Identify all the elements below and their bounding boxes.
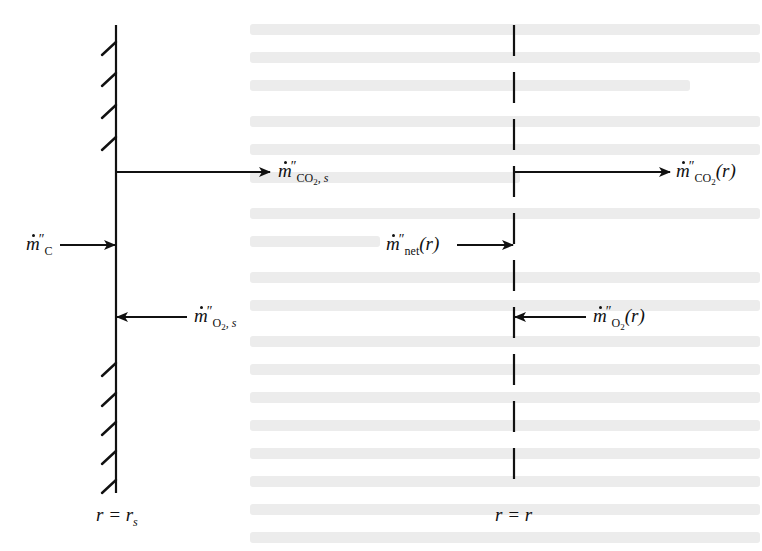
surface-label-particle: r = rs: [96, 505, 138, 524]
mass-flux-symbol: m: [593, 306, 607, 325]
species-subscript: CO: [297, 171, 314, 185]
mass-flux-symbol: m: [26, 234, 40, 253]
hatch-mark: [102, 42, 116, 55]
hatch-mark: [102, 105, 116, 118]
hatch-mark: [102, 137, 116, 150]
species-subscript: CO: [695, 171, 712, 185]
mass-flux-symbol: m: [386, 234, 400, 253]
mass-flux-symbol: m: [278, 161, 292, 180]
flux-label-net-r: m″net(r): [386, 233, 439, 253]
surface-equation: r = r: [495, 504, 532, 525]
location-subscript: , s: [226, 316, 237, 330]
radius-argument: (r): [419, 233, 439, 254]
hatch-mark: [102, 363, 116, 376]
radius-argument: (r): [716, 160, 736, 181]
species-subscript: O: [612, 316, 621, 330]
mass-flux-symbol: m: [676, 161, 690, 180]
flux-label-co2-r: m″CO2(r): [676, 160, 736, 182]
surface-subscript: s: [133, 515, 138, 529]
hatch-mark: [102, 451, 116, 464]
flux-arrows: [60, 172, 670, 317]
flux-label-o2-surface: m″O2, s: [194, 305, 236, 327]
species-subscript: O: [213, 316, 222, 330]
flux-label-carbon: m″C: [26, 233, 53, 253]
radius-argument: (r): [625, 305, 645, 326]
net-subscript: net: [405, 244, 420, 258]
surface-equation: r = r: [96, 504, 133, 525]
flux-label-co2-surface: m″CO2, s: [278, 160, 328, 182]
control-volume-diagram: [0, 0, 762, 551]
hatch-mark: [102, 393, 116, 406]
particle-surface-line: [102, 25, 116, 493]
hatch-mark: [102, 422, 116, 435]
hatch-mark: [102, 480, 116, 493]
flux-label-o2-r: m″O2(r): [593, 305, 645, 327]
species-subscript: C: [45, 244, 53, 258]
mass-flux-symbol: m: [194, 306, 208, 325]
location-subscript: , s: [318, 171, 329, 185]
surface-label-control: r = r: [495, 505, 532, 524]
hatch-mark: [102, 73, 116, 86]
